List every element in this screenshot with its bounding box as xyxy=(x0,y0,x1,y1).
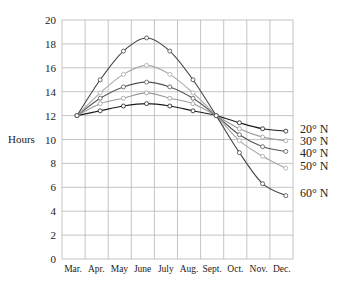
x-tick-label: July xyxy=(158,264,174,274)
x-tick-label: Mar. xyxy=(64,264,82,274)
daylight-hours-chart: 02468101214161820 Mar.Apr.MayJuneJulyAug… xyxy=(0,0,339,283)
x-axis-ticks: Mar.Apr.MayJuneJulyAug.Sept.Oct.Nov.Dec. xyxy=(64,264,290,274)
data-point-marker xyxy=(214,114,218,118)
x-tick-label: Nov. xyxy=(250,264,268,274)
data-point-marker xyxy=(168,72,172,76)
data-point-marker xyxy=(121,85,125,89)
data-point-marker xyxy=(145,36,149,40)
y-tick-label: 18 xyxy=(45,38,57,50)
series-lines xyxy=(75,36,288,198)
y-tick-label: 8 xyxy=(51,157,57,169)
data-point-marker xyxy=(145,102,149,106)
legend-label: 40° N xyxy=(300,146,329,160)
data-point-marker xyxy=(121,49,125,53)
data-point-marker xyxy=(261,135,265,139)
series-50n xyxy=(75,63,288,170)
data-point-marker xyxy=(284,149,288,153)
data-point-marker xyxy=(237,151,241,155)
data-point-marker xyxy=(261,145,265,149)
y-tick-label: 0 xyxy=(51,253,57,265)
data-point-marker xyxy=(168,85,172,89)
data-point-marker xyxy=(98,96,102,100)
legend-label: 60° N xyxy=(300,186,329,200)
y-tick-label: 12 xyxy=(45,110,56,122)
data-point-marker xyxy=(191,91,195,95)
data-point-marker xyxy=(284,139,288,143)
data-point-marker xyxy=(145,80,149,84)
data-point-marker xyxy=(261,182,265,186)
legend: 20° N30° N40° N50° N60° N xyxy=(300,122,329,200)
series-40n xyxy=(75,80,288,153)
data-point-marker xyxy=(191,78,195,82)
grid xyxy=(62,20,293,259)
data-point-marker xyxy=(145,63,149,67)
series-60n xyxy=(75,36,288,198)
y-tick-label: 20 xyxy=(45,14,57,26)
x-tick-label: Apr. xyxy=(88,264,105,274)
series-30n xyxy=(75,91,288,143)
data-point-marker xyxy=(284,194,288,198)
y-tick-label: 14 xyxy=(45,86,57,98)
data-point-marker xyxy=(237,127,241,131)
data-point-marker xyxy=(191,102,195,106)
x-tick-label: Sept. xyxy=(203,264,222,274)
data-point-marker xyxy=(75,114,79,118)
y-tick-label: 16 xyxy=(45,62,57,74)
data-point-marker xyxy=(98,78,102,82)
data-point-marker xyxy=(191,96,195,100)
data-point-marker xyxy=(191,109,195,113)
x-tick-label: June xyxy=(134,264,151,274)
y-tick-label: 10 xyxy=(45,134,57,146)
data-point-marker xyxy=(168,96,172,100)
data-point-marker xyxy=(261,127,265,131)
series-20n xyxy=(75,102,288,133)
data-point-marker xyxy=(284,129,288,133)
x-tick-label: Dec. xyxy=(273,264,291,274)
x-tick-label: Oct. xyxy=(227,264,243,274)
y-tick-label: 6 xyxy=(51,181,57,193)
x-tick-label: May xyxy=(111,264,129,274)
data-point-marker xyxy=(121,104,125,108)
data-point-marker xyxy=(168,104,172,108)
data-point-marker xyxy=(237,133,241,137)
data-point-marker xyxy=(284,166,288,170)
data-point-marker xyxy=(237,121,241,125)
y-tick-label: 2 xyxy=(51,229,57,241)
data-point-marker xyxy=(98,91,102,95)
data-point-marker xyxy=(168,49,172,53)
legend-label: 50° N xyxy=(300,159,329,173)
y-axis-ticks: 02468101214161820 xyxy=(45,14,57,265)
data-point-marker xyxy=(98,109,102,113)
data-point-marker xyxy=(121,96,125,100)
data-point-marker xyxy=(98,102,102,106)
data-point-marker xyxy=(261,154,265,158)
x-tick-label: Aug. xyxy=(180,264,199,274)
data-point-marker xyxy=(237,139,241,143)
y-tick-label: 4 xyxy=(51,205,57,217)
y-axis-label: Hours xyxy=(8,133,35,145)
data-point-marker xyxy=(121,72,125,76)
data-point-marker xyxy=(145,91,149,95)
